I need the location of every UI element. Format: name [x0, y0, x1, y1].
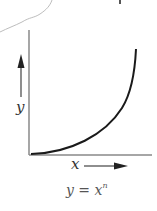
power-curve-diagram: y x y = xn [0, 0, 157, 211]
y-direction-arrow-icon [18, 54, 25, 97]
y-axis-label: y [16, 100, 24, 115]
caption-base: y = x [66, 182, 102, 198]
power-curve [31, 49, 136, 154]
x-direction-arrow-icon [84, 163, 128, 170]
caption-exponent: n [102, 181, 107, 190]
page-edge-line [0, 0, 52, 32]
page-mark [119, 0, 121, 4]
equation-caption: y = xn [66, 182, 108, 197]
x-axis-label: x [71, 157, 79, 172]
